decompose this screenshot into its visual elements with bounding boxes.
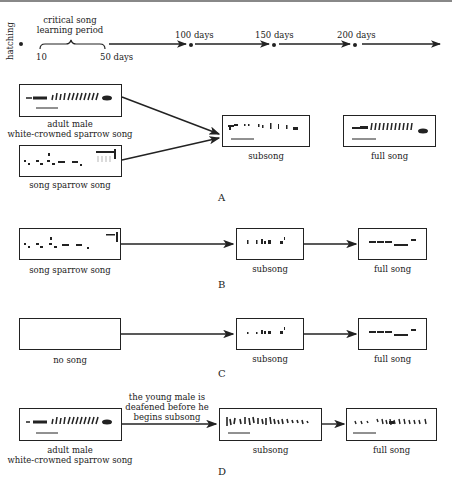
wcs-label-2-d: white-crowned sparrow song <box>5 455 135 465</box>
spectrogram-full-song-c <box>358 318 427 350</box>
subsong-label-b: subsong <box>236 264 304 274</box>
spectrogram-song-sparrow-b <box>19 228 121 260</box>
spectrogram-full-song-b <box>358 228 427 260</box>
spectrogram-wcs-adult-a <box>19 84 122 117</box>
deafened-annotation-2: deafened before he <box>117 402 217 412</box>
wcs-label-1-d: adult male <box>10 445 130 455</box>
panel-letter-d: D <box>218 466 226 477</box>
wcs-label-1-a: adult male <box>10 119 130 129</box>
empty-box-no-song-c <box>19 318 121 350</box>
full-song-label-d: full song <box>346 445 437 455</box>
deafened-annotation-1: the young male is <box>117 392 217 402</box>
wcs-label-2-a: white-crowned sparrow song <box>5 129 135 139</box>
spectrogram-wcs-adult-d <box>19 408 122 441</box>
full-song-label-b: full song <box>358 264 427 274</box>
critical-period-brace <box>40 40 105 49</box>
deafened-annotation-3: begins subsong <box>117 412 217 422</box>
subsong-label-c: subsong <box>236 354 304 364</box>
spectrogram-subsong-b <box>236 228 304 260</box>
panel-letter-a: A <box>218 192 225 203</box>
spectrogram-full-song-d <box>346 408 437 441</box>
full-song-label-a: full song <box>343 151 436 161</box>
panel-letter-b: B <box>218 279 225 290</box>
spectrogram-song-sparrow-a <box>19 145 122 177</box>
subsong-label-d: subsong <box>219 445 322 455</box>
spectrogram-full-song-a <box>343 115 436 147</box>
spectrogram-subsong-a <box>222 115 310 147</box>
song-sparrow-label-b: song sparrow song <box>10 265 130 275</box>
panel-letter-c: C <box>218 368 226 379</box>
full-song-label-c: full song <box>358 354 427 364</box>
spectrogram-subsong-d <box>219 408 322 441</box>
spectrogram-subsong-c <box>236 318 304 350</box>
subsong-label-a: subsong <box>222 151 310 161</box>
no-song-label-c: no song <box>10 355 130 365</box>
song-sparrow-label-a: song sparrow song <box>10 180 130 190</box>
